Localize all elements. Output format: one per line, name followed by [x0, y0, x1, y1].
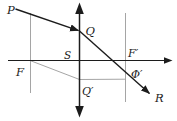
point-label-Phi-prime: Φ′: [131, 68, 143, 81]
lens-bottom-arrowhead-icon: [75, 106, 84, 118]
axis-arrowhead-icon: [164, 57, 173, 64]
point-label-Q: Q: [86, 24, 96, 38]
point-label-S: S: [64, 49, 71, 61]
point-label-Q-prime: Q′: [82, 85, 94, 98]
focus-construction-line: [31, 61, 80, 80]
lens-ray-diagram: P Q S F′ F Q′ Φ′ R: [0, 0, 177, 121]
point-label-F: F: [15, 65, 25, 79]
point-label-R: R: [154, 91, 164, 105]
diagram-canvas: P Q S F′ F Q′ Φ′ R: [0, 0, 177, 121]
point-label-F-prime: F′: [127, 47, 139, 60]
point-label-P: P: [6, 3, 15, 17]
lens-top-arrowhead-icon: [75, 3, 84, 15]
incident-ray: [16, 9, 79, 31]
